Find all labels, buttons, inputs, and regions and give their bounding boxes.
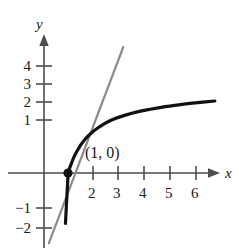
y-axis-arrow-icon <box>39 34 48 46</box>
y-tick-label-4: 4 <box>15 59 31 74</box>
logarithmic-curve <box>65 101 214 223</box>
x-axis-arrow-icon <box>208 168 220 178</box>
graph-figure: y x 4 3 2 1 −1 −2 2 3 4 5 6 (1, 0) <box>0 0 239 250</box>
tangent-point-label: (1, 0) <box>85 145 120 161</box>
y-tick-label-minus-1: −1 <box>6 201 31 216</box>
y-tick-label-1: 1 <box>15 113 31 128</box>
y-tick-label-minus-2: −2 <box>6 221 31 236</box>
plot-canvas <box>0 0 239 250</box>
x-tick-label-6: 6 <box>191 186 199 201</box>
y-tick-label-2: 2 <box>15 95 31 110</box>
x-tick-label-2: 2 <box>88 186 96 201</box>
x-tick-label-5: 5 <box>165 186 173 201</box>
tangent-point-marker <box>63 168 72 177</box>
y-axis-label: y <box>36 17 43 32</box>
y-tick-label-3: 3 <box>15 77 31 92</box>
x-axis-label: x <box>225 166 232 181</box>
x-tick-label-4: 4 <box>139 186 147 201</box>
x-tick-label-3: 3 <box>113 186 121 201</box>
